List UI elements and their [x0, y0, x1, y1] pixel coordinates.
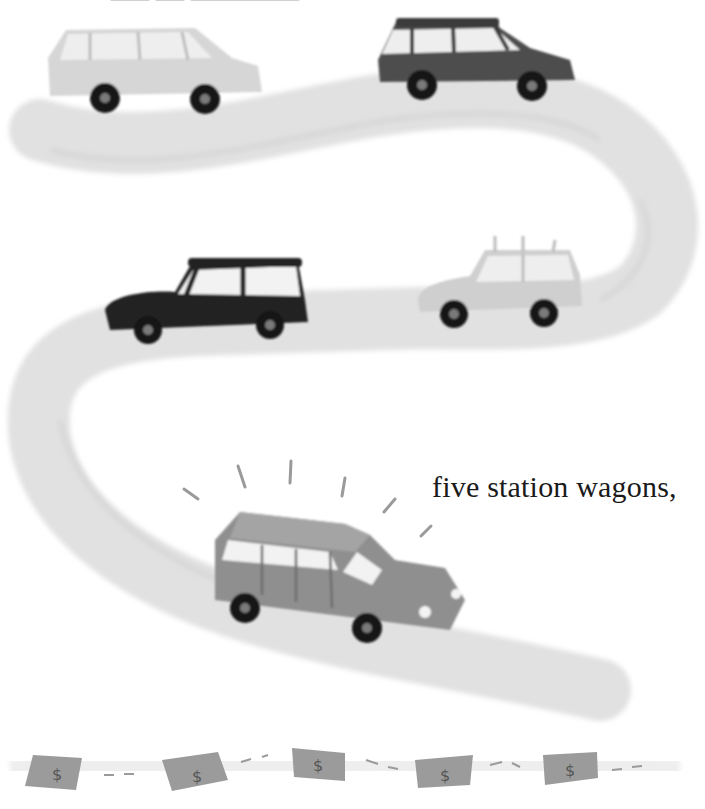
svg-text:$: $ [192, 767, 202, 786]
dollar-bill-icon: $ [25, 755, 82, 790]
svg-text:$: $ [440, 766, 450, 785]
svg-text:$: $ [565, 761, 575, 780]
dollar-bill-icon: $ [292, 748, 345, 781]
illustration: $ $ $ $ $ [0, 0, 705, 809]
svg-text:$: $ [313, 756, 323, 775]
story-caption: five station wagons, [432, 470, 677, 504]
money-trail: $ $ $ $ $ [10, 748, 680, 791]
dollar-bill-icon: $ [415, 755, 473, 788]
svg-text:$: $ [52, 765, 62, 784]
car-1-light-wagon [48, 28, 262, 114]
dollar-bill-icon: $ [543, 752, 598, 785]
